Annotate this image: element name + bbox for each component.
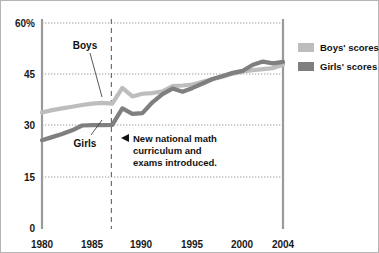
x-tick-label-2000: 2000 (231, 239, 254, 250)
x-tick-label-1995: 1995 (181, 239, 204, 250)
boys-series-label: Boys (73, 40, 98, 51)
girls-series-label: Girls (74, 138, 97, 149)
y-tick-label-60: 60% (15, 18, 35, 29)
x-tick-label-1990: 1990 (130, 239, 153, 250)
y-tick-label-30: 30 (24, 120, 36, 131)
boys-leader-line (90, 53, 102, 97)
series-line-girls (42, 62, 283, 141)
annotation-line-3: exams introduced. (133, 157, 217, 168)
annotation-line-1: New national math (133, 133, 217, 144)
annotation-line-2: curriculum and (133, 145, 202, 156)
series-line-boys (42, 65, 283, 113)
line-chart: 60% 45 30 15 0 1980 1985 1990 1995 2000 … (1, 1, 379, 253)
x-tick-label-1980: 1980 (31, 239, 54, 250)
y-tick-label-0: 0 (29, 223, 35, 234)
legend-label-girls: Girls' scores (320, 61, 377, 72)
x-tick-label-1985: 1985 (81, 239, 104, 250)
x-tick-label-2004: 2004 (272, 239, 295, 250)
y-tick-label-15: 15 (24, 172, 36, 183)
left-triangle-icon (121, 134, 129, 142)
legend-swatch-boys (298, 43, 314, 52)
chart-figure: 60% 45 30 15 0 1980 1985 1990 1995 2000 … (0, 0, 379, 253)
legend-swatch-girls (298, 62, 314, 71)
chart-legend: Boys' scores Girls' scores (298, 42, 379, 72)
legend-label-boys: Boys' scores (320, 42, 379, 53)
girls-leader-line (91, 120, 102, 135)
y-tick-label-45: 45 (24, 69, 36, 80)
